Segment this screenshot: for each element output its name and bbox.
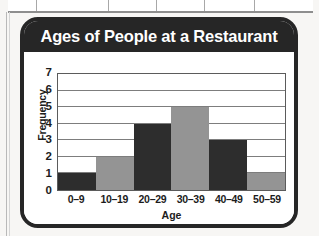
- bar: [134, 124, 172, 190]
- x-axis-tick-label: 20–29: [133, 193, 171, 205]
- bar: [58, 173, 96, 190]
- chart-title-bar: Ages of People at a Restaurant: [24, 21, 294, 52]
- table-divider: [156, 0, 157, 11]
- y-axis-tick-labels: 01234567: [38, 73, 52, 191]
- y-axis-tick-label: 0: [46, 185, 52, 197]
- chart-card: Ages of People at a Restaurant Frequency…: [20, 17, 298, 228]
- table-divider: [108, 0, 109, 11]
- bar: [247, 173, 285, 190]
- y-axis-tick-label: 3: [46, 135, 52, 147]
- bar: [171, 107, 209, 190]
- y-axis-tick-label: 1: [46, 168, 52, 180]
- y-axis-tick-label: 5: [46, 101, 52, 113]
- table-divider: [254, 0, 255, 11]
- x-axis-tick-label: 0–9: [57, 193, 95, 205]
- x-axis-tick-labels: 0–910–1920–2930–3940–4950–59: [57, 193, 286, 205]
- bar: [96, 157, 134, 190]
- bar: [209, 140, 247, 190]
- plot-area: [57, 73, 286, 191]
- y-axis-tick-label: 6: [46, 84, 52, 96]
- chart-body: Frequency 01234567 0–910–1920–2930–3940–…: [24, 52, 294, 224]
- x-axis-title: Age: [57, 209, 286, 221]
- x-axis-tick-label: 30–39: [172, 193, 210, 205]
- table-divider: [36, 0, 37, 11]
- x-axis-tick-label: 40–49: [210, 193, 248, 205]
- y-axis-tick-label: 4: [46, 118, 52, 130]
- x-axis-tick-label: 10–19: [95, 193, 133, 205]
- table-divider: [204, 0, 205, 11]
- page-margin-rule-secondary: [9, 12, 10, 236]
- bar-series: [58, 74, 285, 190]
- page-title: Ages of People at a Restaurant: [41, 27, 278, 46]
- y-axis-tick-label: 7: [46, 67, 52, 79]
- page-table-fragment: [8, 0, 313, 13]
- x-axis-tick-label: 50–59: [248, 193, 286, 205]
- page-margin-rule: [6, 12, 7, 236]
- y-axis-tick-label: 2: [46, 152, 52, 164]
